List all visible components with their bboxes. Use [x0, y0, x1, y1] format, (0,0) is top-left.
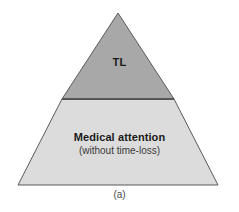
injury-pyramid-figure: TL Medical attention (without time-loss)…	[0, 0, 239, 212]
pyramid-tier-bottom-label: Medical attention (without time-loss)	[0, 131, 239, 157]
pyramid-tier-bottom-title: Medical attention	[0, 131, 239, 144]
pyramid-tier-top-label: TL	[0, 56, 239, 69]
pyramid-diagram	[0, 0, 239, 212]
figure-caption: (a)	[0, 189, 239, 200]
pyramid-tier-bottom-subtitle: (without time-loss)	[0, 145, 239, 157]
